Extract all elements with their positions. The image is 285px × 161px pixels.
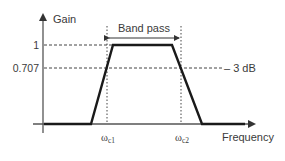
band-pass-label: Band pass xyxy=(118,22,170,34)
wc2-label: ωc2 xyxy=(175,132,189,145)
y-axis-label: Gain xyxy=(53,13,76,25)
response-curve xyxy=(44,45,245,124)
x-axis-label: Frequency xyxy=(222,131,274,143)
y-tick-0707: 0.707 xyxy=(13,62,39,74)
wc1-label: ωc1 xyxy=(101,132,115,145)
db-annotation: – 3 dB xyxy=(224,62,256,74)
y-tick-1: 1 xyxy=(33,39,39,51)
bandpass-diagram: Gain 1 0.707 Band pass – 3 dB Frequency … xyxy=(0,0,285,161)
